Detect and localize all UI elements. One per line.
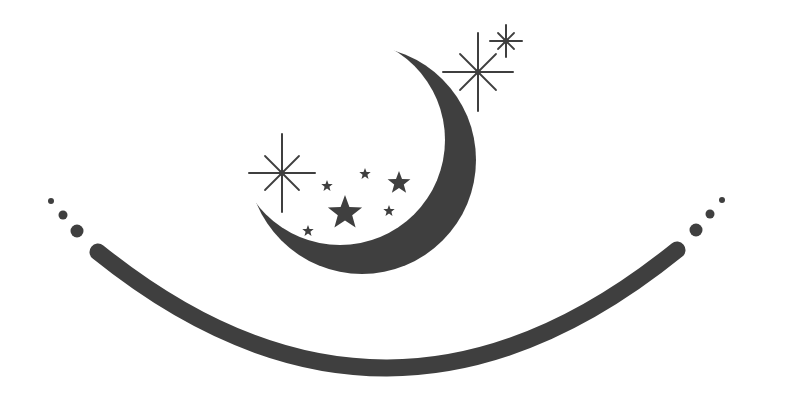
right-dot-1 (719, 197, 725, 203)
sparkle-icon (490, 25, 522, 57)
left-dot-2 (59, 211, 68, 220)
dots-left (48, 198, 84, 238)
left-dot-3 (71, 225, 84, 238)
dots-right (690, 197, 726, 237)
right-dot-2 (706, 210, 715, 219)
right-dot-3 (690, 224, 703, 237)
moon-stars-logo (0, 0, 785, 420)
left-dot-1 (48, 198, 54, 204)
